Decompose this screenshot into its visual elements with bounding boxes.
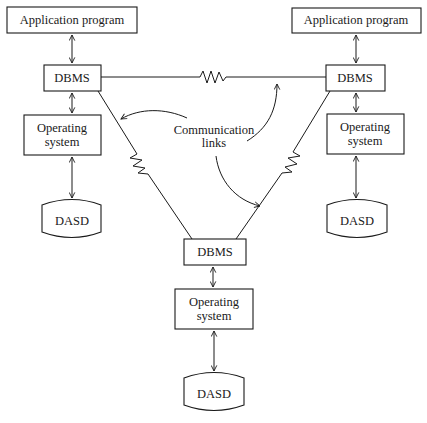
left-os-label-line1: Operating [37, 121, 88, 135]
left-dbms-label: DBMS [54, 71, 89, 85]
bottom-dbms-label: DBMS [197, 245, 232, 259]
communication-links-annotation: Communication links [121, 84, 277, 206]
right-application-program-label: Application program [304, 13, 409, 27]
left-application-program-label: Application program [20, 13, 125, 27]
bottom-dasd-label: DASD [197, 387, 231, 401]
right-os-label-line2: system [348, 134, 383, 148]
annotation-line1: Communication [174, 123, 255, 137]
bottom-os-label-line1: Operating [189, 295, 240, 309]
bottom-os-label-line2: system [197, 309, 232, 323]
right-dasd-label: DASD [340, 214, 374, 228]
link-left-bottom [98, 91, 192, 239]
left-os-label-line2: system [45, 135, 80, 149]
annotation-arrow-bottom [216, 156, 260, 206]
right-os-label-line1: Operating [340, 120, 391, 134]
right-node: Application program DBMS Operating syste… [292, 8, 421, 238]
left-dasd-label: DASD [55, 214, 89, 228]
diagram-canvas: Communication links Application program … [0, 0, 427, 423]
annotation-arrow-left [121, 111, 187, 119]
right-dbms-label: DBMS [337, 71, 372, 85]
link-right-bottom [236, 91, 330, 239]
annotation-line2: links [202, 136, 226, 150]
bottom-node: DBMS Operating system DASD [175, 239, 253, 411]
link-left-right [101, 71, 326, 83]
